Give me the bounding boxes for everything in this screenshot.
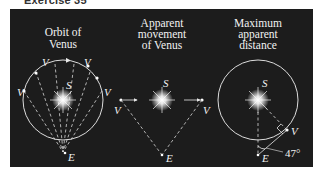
earth-icon — [161, 154, 164, 157]
sun-icon — [149, 87, 175, 113]
angle-arc — [258, 146, 265, 149]
panel-orbit-of-venus: Orbit of Venus V V — [17, 26, 112, 163]
venus-label: V — [291, 125, 299, 137]
caption-line-3: of Venus — [142, 39, 183, 51]
caption-line-3: distance — [239, 39, 277, 51]
earth-icon — [257, 154, 260, 157]
sun-label: S — [262, 77, 268, 89]
venus-label: V — [203, 104, 211, 116]
panel-apparent-movement: Apparent movement of Venus V V S E — [114, 17, 211, 164]
venus-label: V — [104, 86, 112, 98]
venus-label: V — [42, 56, 50, 68]
earth-label: E — [261, 152, 269, 164]
sun-label: S — [163, 77, 169, 89]
caption-line-1: Orbit of — [45, 26, 82, 38]
caption-line-2: Venus — [49, 38, 78, 50]
venus-label: V — [84, 56, 92, 68]
venus-orbit-diagram: Orbit of Venus V V — [0, 0, 322, 170]
earth-label: E — [165, 152, 173, 164]
sun-icon — [50, 87, 76, 113]
panel-maximum-apparent-distance: Maximum apparent distance S V E 47° — [218, 17, 300, 164]
angle-label: 47° — [285, 147, 300, 159]
earth-label: E — [67, 151, 75, 163]
sun-label: S — [66, 79, 72, 91]
earth-icon — [64, 152, 67, 155]
venus-label: V — [114, 104, 122, 116]
